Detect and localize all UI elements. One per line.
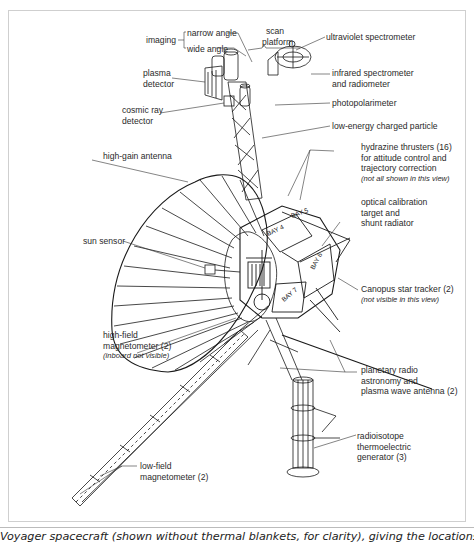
label-photopolarimeter: photopolarimeter <box>332 98 397 109</box>
label-rtg-line3: generator (3) <box>357 452 411 463</box>
label-narrow-angle: narrow angle <box>187 28 237 39</box>
label-cosmic-line1: cosmic ray <box>122 105 163 116</box>
label-canopus-line1: Canopus star tracker (2) <box>361 284 454 295</box>
label-pra-line2: astronomy and <box>361 376 458 387</box>
bay-7-label: BAY 7 <box>280 286 298 303</box>
label-infrared-spectrometer: infrared spectrometer and radiometer <box>332 68 414 89</box>
label-optical-line2: target and <box>361 208 427 219</box>
label-hydrazine-note: (not all shown in this view) <box>361 174 452 185</box>
label-hydrazine-thrusters: hydrazine thrusters (16) for attitude co… <box>361 142 452 184</box>
spacecraft-bus <box>240 206 350 332</box>
label-scan-platform: scan platform <box>262 26 293 47</box>
label-high-gain-antenna: high-gain antenna <box>103 151 172 162</box>
label-hydrazine-line2: for attitude control and <box>361 153 452 164</box>
label-optical-calibration: optical calibration target and shunt rad… <box>361 197 427 229</box>
label-hfm-line2: magnetometer (2) <box>103 341 171 352</box>
label-ultraviolet-spectrometer: ultraviolet spectrometer <box>326 32 415 43</box>
label-optical-line1: optical calibration <box>361 197 427 208</box>
label-rtg-line2: thermoelectric <box>357 442 411 453</box>
label-hydrazine-line3: trajectory correction <box>361 163 452 174</box>
label-planetary-radio-astronomy: planetary radio astronomy and plasma wav… <box>361 365 458 397</box>
label-pra-line1: planetary radio <box>361 365 458 376</box>
label-optical-line3: shunt radiator <box>361 218 427 229</box>
rtg-assembly <box>266 318 340 477</box>
plasma-detector-shape <box>205 66 222 100</box>
label-low-energy-charged-particle: low-energy charged particle <box>332 121 438 132</box>
label-infrared-line1: infrared spectrometer <box>332 68 414 79</box>
label-infrared-line2: and radiometer <box>332 79 414 90</box>
sun-sensor-shape <box>205 265 215 274</box>
label-canopus-note: (not visible in this view) <box>361 295 454 306</box>
label-hfm-line1: high-field <box>103 330 171 341</box>
label-rtg-line1: radioisotope <box>357 431 411 442</box>
label-rtg: radioisotope thermoelectric generator (3… <box>357 431 411 463</box>
label-high-field-magnetometer: high-field magnetometer (2) (inboard not… <box>103 330 171 362</box>
label-hfm-note: (inboard not visible) <box>103 351 171 362</box>
label-hydrazine-line1: hydrazine thrusters (16) <box>361 142 452 153</box>
label-plasma-line2: detector <box>143 79 174 90</box>
label-lfm-line2: magnetometer (2) <box>140 472 208 483</box>
bay-4-label: BAY 4 <box>265 223 284 237</box>
bay-6-label: BAY 6 <box>309 251 324 270</box>
label-wide-angle: wide angle <box>187 44 228 55</box>
label-plasma-detector: plasma detector <box>143 68 174 89</box>
label-cosmic-line2: detector <box>122 116 163 127</box>
label-pra-line3: plasma wave antenna (2) <box>361 386 458 397</box>
label-canopus-star-tracker: Canopus star tracker (2) (not visible in… <box>361 284 454 305</box>
label-sun-sensor: sun sensor <box>83 236 125 247</box>
bay-5-label: BAY 5 <box>290 206 310 219</box>
label-low-field-magnetometer: low-field magnetometer (2) <box>140 461 208 482</box>
label-lfm-line1: low-field <box>140 461 208 472</box>
science-boom <box>228 82 262 200</box>
label-scan-platform-line2: platform <box>262 37 293 48</box>
label-plasma-line1: plasma <box>143 68 174 79</box>
label-cosmic-ray-detector: cosmic ray detector <box>122 105 163 126</box>
label-scan-platform-line1: scan <box>262 26 293 37</box>
label-imaging: imaging <box>146 35 176 46</box>
figure-caption: Voyager spacecraft (shown without therma… <box>0 527 474 542</box>
